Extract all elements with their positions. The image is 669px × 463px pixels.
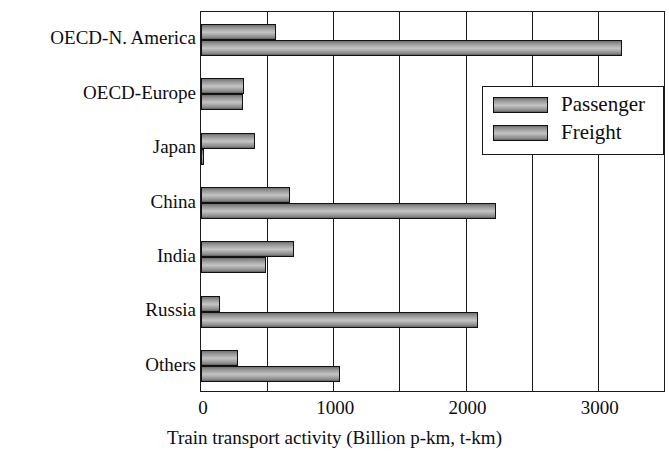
- bar-passenger-japan: [201, 133, 255, 149]
- train-transport-activity-chart: OECD-N. AmericaOECD-EuropeJapanChinaIndi…: [0, 0, 669, 463]
- bar-passenger-russia: [201, 296, 220, 312]
- bar-freight-russia: [201, 312, 478, 328]
- bar-passenger-others: [201, 350, 238, 366]
- gridline: [532, 12, 533, 391]
- x-axis-tick-0: 0: [198, 398, 208, 417]
- bar-passenger-china: [201, 187, 290, 203]
- legend: Passenger Freight: [482, 86, 664, 155]
- bar-passenger-india: [201, 241, 294, 257]
- bar-freight-japan: [201, 149, 204, 165]
- y-axis-label-china: China: [151, 192, 196, 211]
- y-axis-label-oecd-n-america: OECD-N. America: [50, 28, 196, 47]
- legend-label-passenger: Passenger: [561, 94, 645, 115]
- plot-area: Passenger Freight: [200, 11, 665, 392]
- bar-freight-india: [201, 257, 266, 273]
- gridline: [399, 12, 400, 391]
- legend-swatch-passenger: [493, 97, 548, 113]
- y-axis-label-japan: Japan: [153, 137, 196, 156]
- x-axis-tick-1000: 1000: [316, 398, 354, 417]
- y-axis-label-oecd-europe: OECD-Europe: [83, 83, 196, 102]
- legend-entry-passenger: Passenger: [493, 94, 645, 115]
- legend-entry-freight: Freight: [493, 122, 622, 143]
- x-axis-tick-labels: 0100020003000: [0, 398, 669, 422]
- x-axis-tick-2000: 2000: [449, 398, 487, 417]
- gridline: [333, 12, 334, 391]
- gridline: [598, 12, 599, 391]
- bar-passenger-oecd-n-america: [201, 24, 276, 40]
- x-axis-title: Train transport activity (Billion p-km, …: [0, 428, 669, 448]
- x-axis-tick-3000: 3000: [581, 398, 619, 417]
- bar-passenger-oecd-europe: [201, 78, 244, 94]
- legend-swatch-freight: [493, 125, 548, 141]
- y-axis-label-india: India: [157, 246, 196, 265]
- y-axis-label-others: Others: [145, 355, 196, 374]
- bar-freight-oecd-n-america: [201, 40, 622, 56]
- bar-freight-others: [201, 366, 340, 382]
- gridline: [466, 12, 467, 391]
- bar-freight-oecd-europe: [201, 94, 243, 110]
- legend-label-freight: Freight: [561, 122, 622, 143]
- y-axis-label-russia: Russia: [145, 300, 196, 319]
- bar-freight-china: [201, 203, 496, 219]
- y-axis-category-labels: OECD-N. AmericaOECD-EuropeJapanChinaIndi…: [0, 0, 196, 392]
